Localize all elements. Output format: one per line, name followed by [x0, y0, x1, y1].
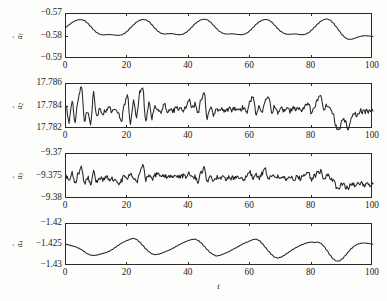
series-a1_hat: [66, 19, 373, 39]
xtick-label-p3-0: 0: [45, 200, 85, 210]
ytick-mark-p3-1: [65, 176, 68, 177]
xtick-mark-top-p1-1: [126, 13, 127, 16]
xtick-mark-top-p2-1: [126, 83, 127, 86]
xtick-label-p2-4: 80: [291, 130, 331, 140]
xtick-label-p2-5: 100: [352, 130, 387, 140]
ytick-mark-p4-1: [65, 244, 68, 245]
ylabel-symbol-p3: â3: [15, 172, 24, 178]
xtick-mark-top-p3-2: [188, 153, 189, 156]
ylabel-p3: â3: [15, 165, 27, 187]
trace-3: [66, 154, 373, 199]
ytick-label-p1-1: −0.58: [2, 31, 62, 40]
ylabel-symbol-p1: â1: [15, 32, 24, 38]
xtick-label-p3-2: 40: [168, 200, 208, 210]
axes-box-4: [65, 223, 372, 265]
figure-canvas: −0.57−0.58−0.59020406080100â117.78617.7…: [0, 0, 387, 301]
xtick-mark-p1-4: [311, 55, 312, 58]
trace-1: [66, 14, 373, 59]
ytick-label-p3-1: −9.375: [2, 171, 62, 180]
ylabel-symbol-p2: â2: [15, 102, 24, 108]
xtick-label-p4-3: 60: [229, 267, 269, 277]
xtick-label-p2-0: 0: [45, 130, 85, 140]
axes-box-3: [65, 153, 372, 198]
xtick-mark-top-p4-2: [188, 223, 189, 226]
ytick-mark-p1-1: [65, 36, 68, 37]
xtick-mark-p4-3: [249, 262, 250, 265]
xtick-label-p1-5: 100: [352, 60, 387, 70]
xtick-label-p3-5: 100: [352, 200, 387, 210]
xtick-label-p1-4: 80: [291, 60, 331, 70]
xtick-mark-p2-3: [249, 125, 250, 128]
ytick-label-p3-0: −9.37: [2, 148, 62, 157]
trace-4: [66, 224, 373, 266]
xtick-label-p3-4: 80: [291, 200, 331, 210]
series-a3_hat: [66, 164, 373, 189]
axes-box-1: [65, 13, 372, 58]
series-a4_hat: [66, 238, 373, 261]
xtick-mark-top-p1-3: [249, 13, 250, 16]
xtick-mark-p4-4: [311, 262, 312, 265]
ylabel-p4: â4: [15, 233, 27, 255]
trace-2: [66, 84, 373, 129]
xtick-label-p2-1: 20: [106, 130, 146, 140]
ylabel-symbol-p4: â4: [15, 241, 24, 247]
xtick-mark-top-p4-4: [311, 223, 312, 226]
xtick-label-p4-2: 40: [168, 267, 208, 277]
ytick-mark-p2-1: [65, 106, 68, 107]
series-a2_hat: [66, 87, 373, 130]
axes-box-2: [65, 83, 372, 128]
xtick-label-p1-3: 60: [229, 60, 269, 70]
xtick-mark-p1-3: [249, 55, 250, 58]
xtick-label-p1-0: 0: [45, 60, 85, 70]
xtick-mark-p1-2: [188, 55, 189, 58]
xtick-mark-p3-2: [188, 195, 189, 198]
ylabel-p2: â2: [15, 95, 27, 117]
xtick-mark-top-p3-1: [126, 153, 127, 156]
xtick-mark-top-p4-1: [126, 223, 127, 226]
ytick-label-p4-1: −1.425: [2, 239, 62, 248]
xtick-mark-p2-4: [311, 125, 312, 128]
xtick-mark-top-p4-3: [249, 223, 250, 226]
xtick-mark-top-p3-3: [249, 153, 250, 156]
xtick-mark-p4-1: [126, 262, 127, 265]
xtick-mark-p3-1: [126, 195, 127, 198]
ytick-label-p1-0: −0.57: [2, 8, 62, 17]
xtick-label-p1-1: 20: [106, 60, 146, 70]
xtick-label-p4-5: 100: [352, 267, 387, 277]
xtick-mark-p1-1: [126, 55, 127, 58]
xtick-mark-top-p1-2: [188, 13, 189, 16]
xtick-label-p3-3: 60: [229, 200, 269, 210]
xtick-mark-top-p3-4: [311, 153, 312, 156]
xtick-mark-top-p1-4: [311, 13, 312, 16]
xtick-mark-p2-2: [188, 125, 189, 128]
ylabel-p1: â1: [15, 25, 27, 47]
xtick-mark-p2-1: [126, 125, 127, 128]
ytick-label-p2-1: 17.784: [2, 101, 62, 110]
xtick-mark-p3-3: [249, 195, 250, 198]
xtick-label-p2-2: 40: [168, 130, 208, 140]
xtick-mark-p3-4: [311, 195, 312, 198]
xaxis-label: t: [199, 281, 239, 291]
xtick-label-p4-4: 80: [291, 267, 331, 277]
xtick-mark-top-p2-3: [249, 83, 250, 86]
xtick-mark-top-p2-4: [311, 83, 312, 86]
xtick-label-p3-1: 20: [106, 200, 146, 210]
xtick-mark-p4-2: [188, 262, 189, 265]
xtick-mark-top-p2-2: [188, 83, 189, 86]
xtick-label-p1-2: 40: [168, 60, 208, 70]
ytick-label-p2-0: 17.786: [2, 78, 62, 87]
xtick-label-p4-0: 0: [45, 267, 85, 277]
xtick-label-p2-3: 60: [229, 130, 269, 140]
xtick-label-p4-1: 20: [106, 267, 146, 277]
ytick-label-p4-0: −1.42: [2, 218, 62, 227]
